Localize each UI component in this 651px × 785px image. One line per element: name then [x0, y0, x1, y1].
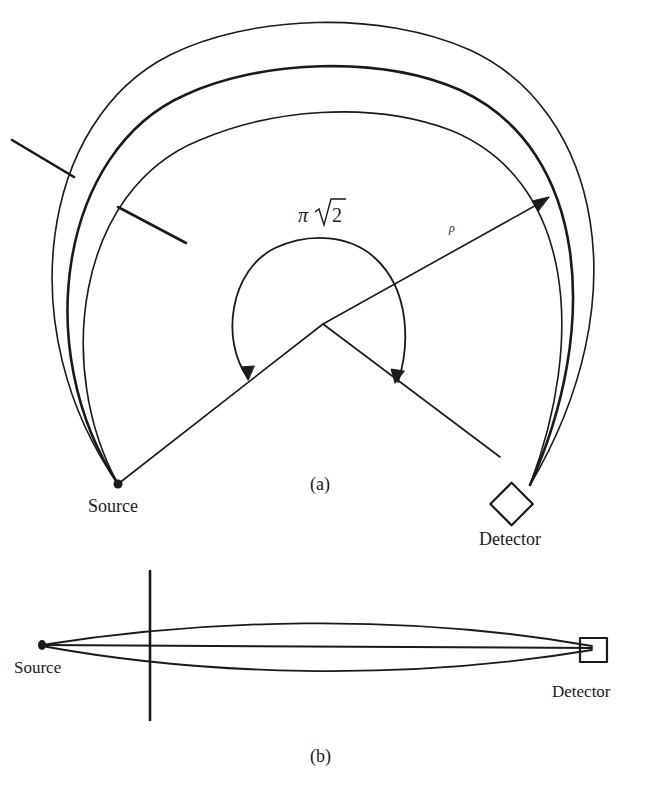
- angle-arrowhead-left: [241, 366, 254, 380]
- baffle-outer-segment: [12, 140, 74, 177]
- figure-b: [38, 571, 607, 720]
- radius-rho-line: [323, 203, 540, 324]
- baffle-inner-segment: [118, 207, 186, 243]
- detector-radial-line: [323, 324, 500, 457]
- source-point-icon: [114, 480, 123, 489]
- angle-label-pi: π: [298, 204, 309, 226]
- figure-b-caption: (b): [310, 746, 331, 767]
- figure-a-caption: (a): [310, 474, 330, 495]
- middle-path-curve: [68, 66, 574, 485]
- diagram-canvas: π 2 ρ (a) Source Detector Source Detecto…: [0, 0, 651, 785]
- source-label-a: Source: [88, 496, 138, 516]
- figure-a: [12, 22, 594, 525]
- detector-label-a: Detector: [479, 529, 541, 549]
- radius-label: ρ: [448, 221, 455, 235]
- middle-path-line: [42, 645, 592, 648]
- detector-label-b: Detector: [552, 682, 611, 701]
- source-radial-line: [118, 324, 323, 484]
- angle-label-root: 2: [332, 204, 342, 226]
- source-label-b: Source: [14, 658, 61, 677]
- detector-box-icon: [490, 483, 532, 525]
- angle-arc: [232, 238, 405, 382]
- radius-arrowhead: [532, 197, 549, 211]
- inner-path-curve: [83, 112, 562, 485]
- detector-box-icon-b: [580, 638, 607, 662]
- upper-path-curve: [42, 623, 592, 646]
- source-point-icon-b: [38, 640, 46, 650]
- outer-path-curve: [52, 22, 594, 485]
- lower-path-curve: [42, 646, 592, 671]
